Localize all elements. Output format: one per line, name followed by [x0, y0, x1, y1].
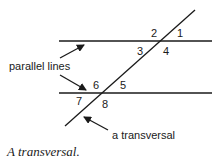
figure-caption: A transversal.: [6, 144, 80, 159]
transversal-diagram: 2 1 3 4 6 5 7 8 parallel lines a transve…: [0, 0, 224, 159]
angle-label-7: 7: [76, 95, 82, 107]
angle-label-5: 5: [120, 79, 126, 91]
transversal-line: [65, 10, 195, 126]
angle-label-3: 3: [137, 45, 143, 57]
angle-label-4: 4: [163, 45, 169, 57]
transversal-label: a transversal: [112, 129, 175, 141]
angle-label-2: 2: [151, 27, 157, 39]
arrow-to-transversal-icon: [84, 117, 108, 130]
parallel-lines-label: parallel lines: [9, 60, 71, 72]
angle-label-8: 8: [102, 98, 108, 110]
angle-label-6: 6: [93, 79, 99, 91]
angle-label-1: 1: [177, 27, 183, 39]
arrow-to-bottom-line-icon: [60, 75, 86, 90]
arrow-to-top-line-icon: [60, 45, 84, 58]
